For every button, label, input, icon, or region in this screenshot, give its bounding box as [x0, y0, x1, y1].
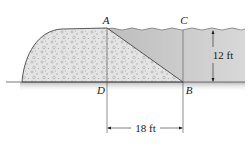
ground-shadow: [20, 82, 245, 92]
dim-18ft-label: 18 ft: [135, 122, 155, 134]
diagram-canvas: 12 ft 18 ft A C D B: [0, 0, 250, 155]
arrowhead-right-icon: [179, 127, 183, 130]
dim-12ft-label: 12 ft: [213, 49, 233, 61]
label-A: A: [102, 14, 110, 26]
label-B: B: [186, 84, 193, 96]
label-D: D: [96, 84, 105, 96]
label-C: C: [180, 14, 188, 26]
arrowhead-left-icon: [107, 127, 111, 130]
dam-water-diagram: 12 ft 18 ft A C D B: [0, 0, 250, 155]
